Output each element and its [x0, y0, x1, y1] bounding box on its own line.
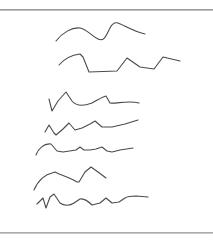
- scribble-line-4: [45, 120, 138, 135]
- handwriting-scribble-image: [0, 0, 213, 242]
- bottom-rule: [0, 232, 213, 234]
- scribble-line-5: [36, 144, 133, 155]
- scribble-line-6: [34, 167, 106, 190]
- scribble-line-3: [49, 92, 139, 111]
- scribble-line-2: [59, 54, 180, 72]
- scribble-line-7: [37, 194, 148, 208]
- scribble-line-1: [56, 23, 145, 41]
